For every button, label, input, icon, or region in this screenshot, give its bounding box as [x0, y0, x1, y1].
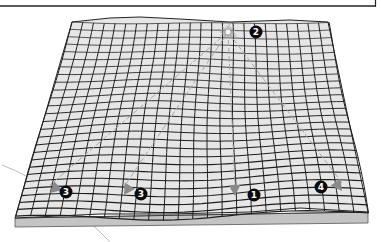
- marker-label: 3: [138, 189, 144, 199]
- marker-3b-badge: 3: [135, 188, 148, 201]
- marker-label: 2: [253, 27, 259, 37]
- marker-2-badge: 2: [250, 26, 263, 39]
- marker-3a-badge: 3: [60, 186, 73, 199]
- grid-surface-diagram: 23314: [0, 0, 381, 242]
- marker-1-badge: 1: [248, 189, 261, 202]
- marker-label: 4: [318, 182, 324, 192]
- marker-label: 1: [251, 190, 257, 200]
- marker-label: 3: [63, 187, 69, 197]
- marker-4-badge: 4: [315, 181, 328, 194]
- top-frame: [0, 0, 376, 7]
